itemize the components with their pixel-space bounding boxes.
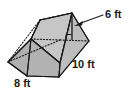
base-label: 8 ft (14, 77, 31, 89)
triangular-prism-figure: 6 ft 10 ft 8 ft (0, 0, 130, 93)
prism-diagram: 6 ft 10 ft 8 ft (0, 0, 130, 93)
height-label: 6 ft (105, 8, 122, 20)
height-leader-line (81, 15, 103, 23)
length-label: 10 ft (72, 58, 95, 70)
height-leader-group (74, 15, 103, 26)
